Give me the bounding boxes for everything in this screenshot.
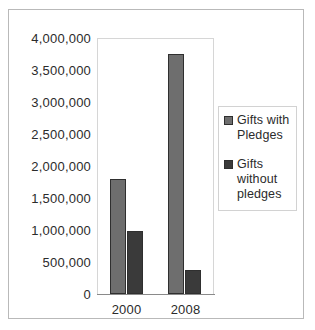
y-axis-tick: 1,000,000 xyxy=(31,223,91,237)
bar[interactable] xyxy=(110,179,126,294)
bar[interactable] xyxy=(185,270,201,294)
x-axis-tick-label: 2000 xyxy=(97,302,156,317)
y-axis-tick-label: 2,500,000 xyxy=(31,127,91,142)
y-axis-tick: 500,000 xyxy=(43,255,91,269)
legend-swatch-icon xyxy=(224,116,233,125)
y-axis-tick: 3,000,000 xyxy=(31,95,91,109)
legend-swatch-icon xyxy=(224,160,233,169)
y-axis-tick-label: 0 xyxy=(84,287,91,302)
y-axis-tick: 2,000,000 xyxy=(31,159,91,173)
chart-legend: Gifts with PledgesGifts without pledges xyxy=(218,106,297,211)
x-axis-tick-label: 2008 xyxy=(156,302,215,317)
y-axis-tick-label: 1,000,000 xyxy=(31,223,91,238)
y-axis-tick: 3,500,000 xyxy=(31,63,91,77)
axis-baseline xyxy=(97,294,215,295)
y-axis-tick-label: 1,500,000 xyxy=(31,191,91,206)
bar-group xyxy=(156,39,214,294)
y-axis: 4,000,0003,500,0003,000,0002,500,0002,00… xyxy=(17,38,91,294)
bar[interactable] xyxy=(127,231,143,294)
legend-item[interactable]: Gifts without pledges xyxy=(224,157,292,202)
y-axis-tick: 4,000,000 xyxy=(31,31,91,45)
y-axis-tick-label: 3,500,000 xyxy=(31,63,91,78)
y-axis-tick-label: 4,000,000 xyxy=(31,31,91,46)
y-axis-tick-label: 3,000,000 xyxy=(31,95,91,110)
chart-frame: 4,000,0003,500,0003,000,0002,500,0002,00… xyxy=(8,9,304,319)
x-axis: 20002008 xyxy=(97,302,215,324)
legend-item[interactable]: Gifts with Pledges xyxy=(224,113,292,143)
y-axis-tick: 2,500,000 xyxy=(31,127,91,141)
y-axis-tick-label: 2,000,000 xyxy=(31,159,91,174)
y-axis-tick: 1,500,000 xyxy=(31,191,91,205)
y-axis-tick-label: 500,000 xyxy=(43,255,91,270)
bar-group xyxy=(98,39,156,294)
y-axis-tick: 0 xyxy=(84,287,91,301)
legend-item-label: Gifts without pledges xyxy=(237,157,292,202)
bar[interactable] xyxy=(168,54,184,294)
plot-area xyxy=(97,38,214,294)
legend-item-label: Gifts with Pledges xyxy=(237,113,292,143)
